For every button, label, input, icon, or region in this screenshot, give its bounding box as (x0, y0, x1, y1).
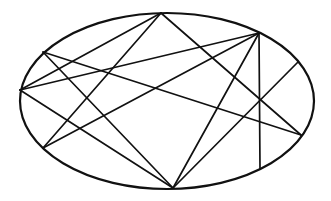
chord-right_upper-bottom (173, 62, 298, 188)
ellipse-outline (20, 13, 314, 189)
chord-left-bottom (20, 90, 173, 188)
ellipse-chord-diagram (0, 0, 331, 201)
chord-top-left (20, 13, 161, 90)
chord-left-top_right (20, 33, 259, 90)
